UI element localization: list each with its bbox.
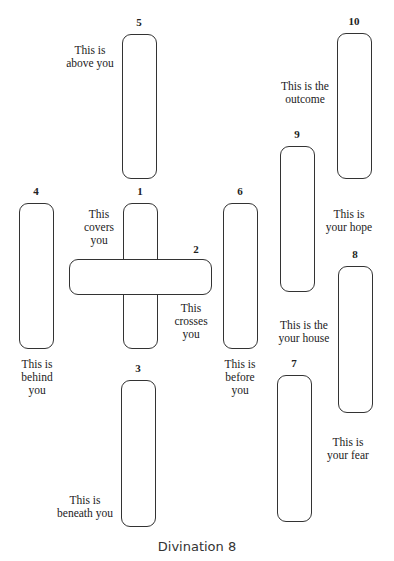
- figure-caption: Divination 8: [0, 539, 394, 554]
- card-5: [122, 34, 157, 179]
- card-2: [69, 259, 212, 295]
- card-5-label: This is above you: [60, 44, 120, 70]
- card-2-label: This crosses you: [166, 302, 216, 341]
- card-9-number: 9: [287, 128, 307, 140]
- card-1-label: This covers you: [78, 208, 120, 247]
- card-10: [337, 33, 372, 179]
- card-6: [223, 203, 258, 349]
- card-10-label: This is the outcome: [270, 80, 340, 106]
- card-8-label: This is the your house: [272, 319, 336, 345]
- card-1-number: 1: [130, 185, 150, 197]
- card-8: [338, 266, 373, 413]
- card-7-label: This is your fear: [316, 436, 380, 462]
- card-4-label: This is behind you: [12, 358, 62, 397]
- card-7: [277, 375, 312, 522]
- card-6-number: 6: [230, 185, 250, 197]
- card-10-number: 10: [344, 15, 364, 27]
- card-9-label: This is your hope: [318, 208, 380, 234]
- card-3: [121, 380, 156, 527]
- card-8-number: 8: [345, 248, 365, 260]
- card-4: [19, 203, 54, 349]
- card-9: [280, 146, 315, 292]
- card-5-number: 5: [129, 16, 149, 28]
- card-4-number: 4: [26, 185, 46, 197]
- card-7-number: 7: [284, 357, 304, 369]
- card-3-label: This is beneath you: [52, 494, 118, 520]
- card-6-label: This is before you: [215, 358, 265, 397]
- card-2-number: 2: [186, 243, 206, 255]
- card-3-number: 3: [128, 362, 148, 374]
